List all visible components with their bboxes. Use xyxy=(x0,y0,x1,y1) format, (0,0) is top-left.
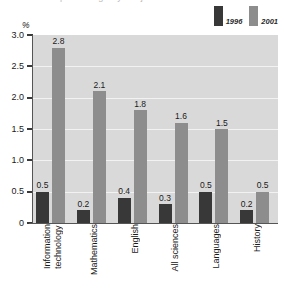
bar-value-label: 0.5 xyxy=(200,181,212,192)
chart-legend: 1996 2001 xyxy=(214,4,278,26)
legend-label-2001: 2001 xyxy=(261,18,278,27)
cropped-title-text: percentage by subject xyxy=(60,0,156,2)
x-axis-label-text: Mathematics xyxy=(89,224,100,275)
bar-value-label: 0.5 xyxy=(37,181,49,192)
legend-label-1996: 1996 xyxy=(226,18,243,27)
legend-item-1996: 1996 xyxy=(214,6,243,26)
bar-value-label: 0.2 xyxy=(77,200,89,211)
y-axis-tick-label: 1.0 xyxy=(11,156,24,165)
bar-1996[interactable]: 0.5 xyxy=(199,192,212,223)
y-axis-tick-label: 3.0 xyxy=(11,31,24,40)
x-axis-label: English xyxy=(117,224,153,306)
bar-2001[interactable]: 0.5 xyxy=(256,192,269,223)
x-axis-label: Languages xyxy=(199,224,235,306)
y-axis-tick-label: 0 xyxy=(19,219,24,228)
bar-value-label: 0.2 xyxy=(241,200,253,211)
bar-1996[interactable]: 0.5 xyxy=(36,192,49,223)
bar-2001[interactable]: 1.5 xyxy=(215,129,228,223)
bar-series-container: 0.52.80.22.10.41.80.31.60.51.50.20.5 xyxy=(33,35,278,223)
bar-group: 0.51.5 xyxy=(196,35,237,223)
x-axis-label-container: Information technologyMathematicsEnglish… xyxy=(33,224,278,306)
bar-value-label: 0.4 xyxy=(118,187,130,198)
bar-1996[interactable]: 0.2 xyxy=(77,210,90,223)
bar-value-label: 0.5 xyxy=(257,181,269,192)
bar-group: 0.31.6 xyxy=(156,35,197,223)
bar-2001[interactable]: 1.8 xyxy=(134,110,147,223)
x-axis-label: History xyxy=(240,224,276,306)
bar-group: 0.52.8 xyxy=(33,35,74,223)
x-axis-label-text: English xyxy=(130,224,141,254)
x-axis-label-text: All sciences xyxy=(170,224,181,272)
bar-value-label: 2.1 xyxy=(93,81,105,92)
legend-swatch-1996 xyxy=(214,6,223,26)
bar-2001[interactable]: 2.8 xyxy=(52,48,65,223)
legend-swatch-2001 xyxy=(249,6,258,26)
y-axis-line xyxy=(32,35,33,224)
x-axis-label: Mathematics xyxy=(76,224,112,306)
bar-group: 0.41.8 xyxy=(115,35,156,223)
y-axis-tick-label: 0.5 xyxy=(11,187,24,196)
bar-value-label: 1.5 xyxy=(216,119,228,130)
bar-1996[interactable]: 0.2 xyxy=(240,210,253,223)
bar-value-label: 1.6 xyxy=(175,112,187,123)
y-axis-tick-label: 1.5 xyxy=(11,125,24,134)
x-axis-label-text: History xyxy=(252,224,263,252)
plot-area: 0.52.80.22.10.41.80.31.60.51.50.20.5 xyxy=(33,35,278,223)
bar-2001[interactable]: 1.6 xyxy=(175,123,188,223)
bar-group: 0.22.1 xyxy=(74,35,115,223)
x-axis-label-text: Information technology xyxy=(42,224,64,269)
bar-value-label: 2.8 xyxy=(53,37,65,48)
bar-1996[interactable]: 0.3 xyxy=(159,204,172,223)
bar-1996[interactable]: 0.4 xyxy=(118,198,131,223)
bar-2001[interactable]: 2.1 xyxy=(93,91,106,223)
y-axis-tick-label: 2.5 xyxy=(11,62,24,71)
bar-group: 0.20.5 xyxy=(237,35,278,223)
legend-item-2001: 2001 xyxy=(249,6,278,26)
bar-value-label: 0.3 xyxy=(159,194,171,205)
x-axis-label: Information technology xyxy=(35,224,71,306)
y-axis-unit-label: % xyxy=(22,20,30,30)
x-axis-label: All sciences xyxy=(158,224,194,306)
bar-value-label: 1.8 xyxy=(134,100,146,111)
y-axis-tick-container: 3.02.52.01.51.00.50 xyxy=(0,35,33,223)
y-axis-tick-label: 2.0 xyxy=(11,93,24,102)
x-axis-label-text: Languages xyxy=(211,224,222,269)
